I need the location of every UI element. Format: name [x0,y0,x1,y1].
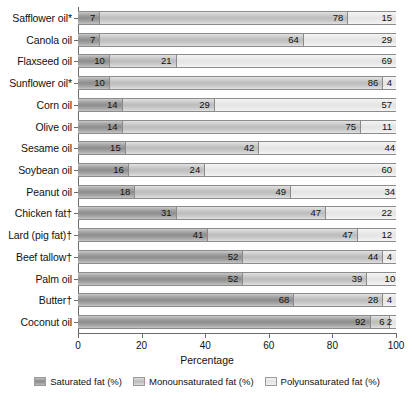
category-label: Sunflower oil* [9,78,72,89]
bar-value-label: 14 [107,122,118,132]
bar-value-label: 41 [193,230,204,240]
category-label: Beef tallow† [16,251,72,262]
x-axis-tick [78,333,79,338]
chart-row: Sesame oil154244 [78,141,396,155]
bar-segment: 24 [129,164,205,176]
x-axis-tick [142,333,143,338]
bar-value-label: 11 [382,122,392,132]
stacked-bar: 184934 [78,185,396,199]
legend-label: Polyunsaturated fat (%) [281,376,380,387]
x-axis-tick [396,333,397,338]
bar-segment: 60 [205,164,396,176]
bar-segment: 34 [291,186,396,198]
stacked-bar: 142957 [78,98,396,112]
chart-row: Coconut oil9262 [78,315,396,329]
bar-segment: 92 [78,316,371,328]
bar-value-label: 16 [113,165,124,175]
bar-segment: 10 [78,77,110,89]
bar-value-label: 75 [345,122,356,132]
chart-row: Peanut oil184934 [78,185,396,199]
x-axis-tick-label: 40 [200,340,211,351]
category-label: Coconut oil [21,317,72,328]
bar-segment: 4 [383,294,396,306]
bar-segment: 7 [78,34,100,46]
category-label: Sesame oil [21,143,72,154]
chart-legend: Saturated fat (%)Monounsaturated fat (%)… [0,376,414,387]
bar-value-label: 10 [94,78,105,88]
bar-value-label: 34 [385,187,396,197]
bar-segment: 28 [294,294,383,306]
bar-segment: 14 [78,99,123,111]
bar-segment: 29 [123,99,215,111]
legend-label: Monounsaturated fat (%) [149,376,254,387]
bar-value-label: 44 [385,143,396,153]
bar-segment: 18 [78,186,135,198]
chart-row: Palm oil523910 [78,272,396,286]
bar-value-label: 86 [368,78,379,88]
bar-segment: 22 [326,207,396,219]
legend-item: Saturated fat (%) [34,376,122,387]
bar-segment: 16 [78,164,129,176]
x-axis-tick-label: 20 [136,340,147,351]
bar-segment: 31 [78,207,177,219]
legend-label: Saturated fat (%) [50,376,122,387]
bar-segment: 15 [78,142,126,154]
stacked-bar: 102169 [78,54,396,68]
chart-row: Butter†68284 [78,293,396,307]
bar-value-label: 14 [107,100,118,110]
legend-item: Monounsaturated fat (%) [133,376,254,387]
bar-segment: 57 [215,99,396,111]
chart-row: Corn oil142957 [78,98,396,112]
bar-value-label: 18 [120,187,131,197]
bar-segment: 10 [78,55,110,67]
bar-segment: 7 [78,12,100,24]
bar-value-label: 64 [288,35,299,45]
bar-value-label: 60 [381,165,392,175]
chart-row: Olive oil147511 [78,120,396,134]
bar-segment: 29 [304,34,396,46]
x-axis-tick [269,333,270,338]
x-axis-tick [205,333,206,338]
legend-swatch-icon [34,377,46,386]
bar-value-label: 57 [381,100,392,110]
x-axis-tick-label: 60 [263,340,274,351]
bar-value-label: 69 [381,56,392,66]
bar-value-label: 24 [190,165,201,175]
x-axis-tick-label: 0 [75,340,81,351]
bar-segment: 86 [110,77,383,89]
bar-segment: 41 [78,229,208,241]
x-axis-tick [332,333,333,338]
bar-value-label: 4 [387,78,392,88]
bar-value-label: 15 [110,143,121,153]
bar-segment: 52 [78,251,243,263]
bar-value-label: 10 [94,56,105,66]
x-axis-tick-label: 80 [327,340,338,351]
bar-value-label: 47 [342,230,353,240]
bar-segment: 49 [135,186,291,198]
bar-value-label: 21 [161,56,172,66]
stacked-bar: 162460 [78,163,396,177]
category-label: Peanut oil [26,186,72,197]
stacked-bar: 68284 [78,293,396,307]
category-label: Canola oil [26,34,72,45]
bar-segment: 69 [177,55,396,67]
bar-value-label: 15 [381,13,392,23]
bar-value-label: 4 [387,295,392,305]
bar-segment: 68 [78,294,294,306]
stacked-bar: 154244 [78,141,396,155]
bar-value-label: 29 [381,35,392,45]
bar-segment: 4 [383,251,396,263]
bar-value-label: 92 [355,317,366,327]
bar-value-label: 68 [279,295,290,305]
bar-value-label: 7 [90,35,95,45]
bar-value-label: 78 [333,13,344,23]
bar-segment: 75 [123,121,362,133]
bar-segment: 10 [367,273,396,285]
chart-row: Sunflower oil*10864 [78,76,396,90]
x-axis-title: Percentage [0,354,414,366]
stacked-bar: 523910 [78,272,396,286]
stacked-bar: 10864 [78,76,396,90]
bar-segment: 2 [390,316,396,328]
chart-row: Flaxseed oil102169 [78,54,396,68]
legend-swatch-icon [265,377,277,386]
